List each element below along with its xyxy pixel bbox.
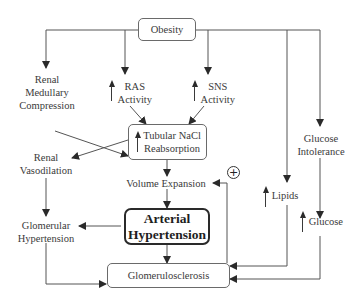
obesity-label: Obesity <box>151 23 184 36</box>
ras-line-2: Activity <box>118 93 152 106</box>
lipids-label: Lipids <box>272 186 299 202</box>
glucose-node: Glucose <box>299 211 361 233</box>
renal-vasodilation-line-1: Renal <box>10 151 82 164</box>
renal-medullary-line-2: Medullary <box>12 86 82 99</box>
glomerulosclerosis-node: Glomerulosclerosis <box>107 263 230 288</box>
increase-arrow-icon <box>299 211 306 233</box>
positive-feedback-icon: + <box>227 166 240 179</box>
volume-expansion-label: Volume Expansion <box>126 178 205 189</box>
increase-arrow-icon <box>134 131 141 153</box>
glomerular-hypertension-line-1: Glomerular <box>8 219 84 232</box>
ras-line-1: RAS <box>118 80 152 93</box>
renal-medullary-line-3: Compression <box>12 99 82 112</box>
sns-activity-node: SNS Activity <box>183 80 243 106</box>
tubular-nacl-reabsorption-node: Tubular NaCl Reabsorption <box>128 124 207 160</box>
glucose-intolerance-node: Glucose Intolerance <box>290 132 352 158</box>
tubular-line-1: Tubular NaCl <box>143 129 201 142</box>
renal-medullary-compression-node: Renal Medullary Compression <box>12 73 82 112</box>
glomerulosclerosis-label: Glomerulosclerosis <box>128 269 210 282</box>
renal-vasodilation-line-2: Vasodilation <box>10 164 82 177</box>
ras-activity-node: RAS Activity <box>100 80 160 106</box>
glucose-intolerance-line-1: Glucose <box>290 132 352 145</box>
tubular-line-2: Reabsorption <box>143 142 201 155</box>
lipids-node: Lipids <box>262 186 322 208</box>
renal-vasodilation-node: Renal Vasodilation <box>10 151 82 177</box>
sns-line-1: SNS <box>201 80 235 93</box>
arterial-hypertension-line-2: Hypertension <box>128 227 206 243</box>
arterial-hypertension-node: Arterial Hypertension <box>124 208 210 245</box>
obesity-node: Obesity <box>138 18 196 41</box>
volume-expansion-node: Volume Expansion <box>120 177 212 190</box>
increase-arrow-icon <box>191 80 198 102</box>
diagram-canvas: Obesity Renal Medullary Compression RAS … <box>0 0 362 298</box>
increase-arrow-icon <box>262 186 269 208</box>
renal-medullary-line-1: Renal <box>12 73 82 86</box>
glucose-intolerance-line-2: Intolerance <box>290 145 352 158</box>
increase-arrow-icon <box>108 80 115 102</box>
sns-line-2: Activity <box>201 93 235 106</box>
glucose-label: Glucose <box>309 211 343 228</box>
glomerular-hypertension-node: Glomerular Hypertension <box>8 219 84 245</box>
arterial-hypertension-line-1: Arterial <box>144 211 190 227</box>
glomerular-hypertension-line-2: Hypertension <box>8 232 84 245</box>
